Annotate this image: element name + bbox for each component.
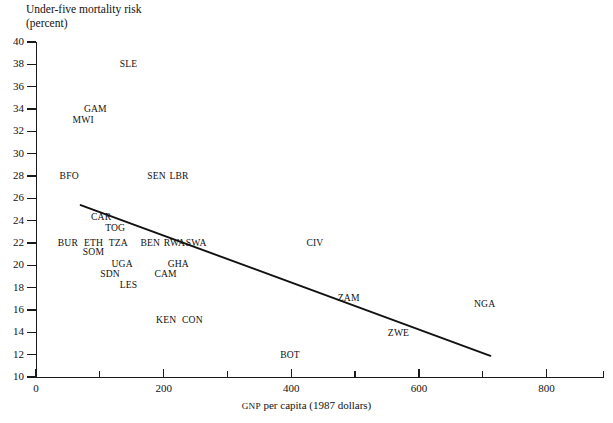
data-point-label-rwa: RWA	[164, 238, 185, 248]
data-point-label-swa: SWA	[186, 238, 207, 248]
data-point-label-tza: TZA	[109, 238, 128, 248]
data-point-label-sdn: SDN	[100, 269, 120, 279]
x-axis-title-rest: per capita (1987 dollars)	[261, 399, 372, 411]
data-point-label-bfo: BFO	[60, 171, 79, 181]
regression-trendline	[81, 205, 491, 356]
data-point-label-zwe: ZWE	[388, 328, 409, 338]
chart-root: Under-five mortality risk (percent) 1012…	[0, 0, 613, 423]
data-point-label-car: CAR	[91, 212, 111, 222]
data-point-label-bur: BUR	[58, 238, 78, 248]
plot-area: SLEGAMMWIBFOSENLBRCARTOGBURETHTZABENRWAS…	[0, 0, 613, 423]
data-point-label-sle: SLE	[120, 59, 138, 69]
data-point-label-gam: GAM	[84, 104, 107, 114]
data-point-label-lbr: LBR	[169, 171, 188, 181]
data-point-label-ken: KEN	[156, 315, 176, 325]
data-point-label-les: LES	[120, 280, 138, 290]
data-point-label-civ: CIV	[306, 238, 323, 248]
data-point-label-tog: TOG	[105, 223, 125, 233]
data-point-label-sen: SEN	[147, 171, 166, 181]
data-point-label-som: SOM	[83, 247, 104, 257]
data-point-label-zam: ZAM	[338, 293, 360, 303]
x-axis-title-prefix: GNP	[242, 401, 261, 411]
data-point-label-mwi: MWI	[73, 115, 94, 125]
data-point-label-con: CON	[182, 315, 203, 325]
data-point-label-nga: NGA	[474, 299, 495, 309]
x-axis-title: GNP per capita (1987 dollars)	[0, 399, 613, 411]
data-point-label-bot: BOT	[280, 350, 300, 360]
data-point-label-cam: CAM	[154, 269, 176, 279]
data-point-label-ben: BEN	[140, 238, 160, 248]
